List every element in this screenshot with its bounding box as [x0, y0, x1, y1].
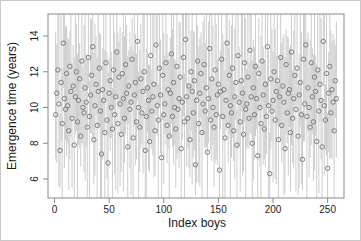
- y-tick-label: 14: [30, 30, 41, 42]
- x-tick-label: 200: [265, 204, 282, 215]
- y-tick-label: 8: [30, 140, 41, 146]
- y-tick-label: 6: [30, 176, 41, 182]
- y-tick-label: 10: [30, 102, 41, 114]
- x-tick-label: 100: [155, 204, 172, 215]
- x-tick-label: 150: [210, 204, 227, 215]
- x-tick-label: 0: [52, 204, 58, 215]
- y-tick-label: 12: [30, 66, 41, 78]
- figure: 050100150200250 68101214 Index boys Emer…: [0, 0, 361, 241]
- interval-lines-layer: [56, 13, 337, 199]
- y-axis-ticks: 68101214: [30, 30, 49, 182]
- x-axis-label: Index boys: [168, 216, 226, 230]
- x-axis-ticks: 050100150200250: [52, 198, 337, 215]
- x-tick-label: 50: [104, 204, 116, 215]
- scatter-plot: 050100150200250 68101214 Index boys Emer…: [1, 1, 361, 241]
- y-axis-label: Emergence time (years): [5, 42, 19, 170]
- x-tick-label: 250: [319, 204, 336, 215]
